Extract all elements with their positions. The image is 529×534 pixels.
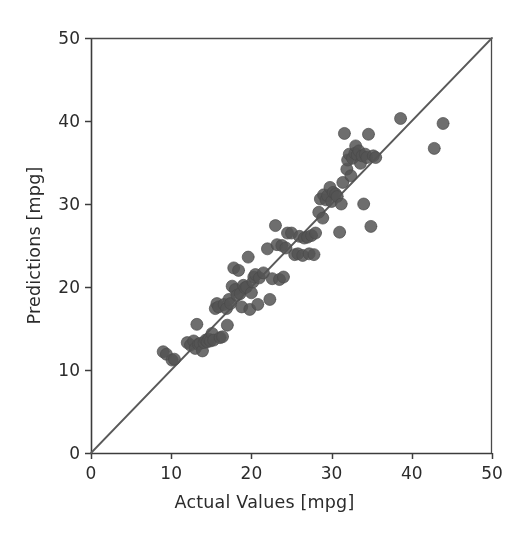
x-tick-label: 40 <box>401 463 423 483</box>
y-tick-label: 0 <box>69 443 80 463</box>
x-axis-title: Actual Values [mpg] <box>0 492 529 512</box>
y-tick-label: 50 <box>58 28 80 48</box>
y-axis-title: Predictions [mpg] <box>24 38 44 453</box>
y-tick-label: 40 <box>58 111 80 131</box>
scatter-plot-figure: 01020304050 01020304050 Actual Values [m… <box>0 0 529 534</box>
y-tick-label: 20 <box>58 277 80 297</box>
x-tick-label: 20 <box>241 463 263 483</box>
x-tick-label: 0 <box>86 463 97 483</box>
y-tick-label: 10 <box>58 360 80 380</box>
y-tick-label: 30 <box>58 194 80 214</box>
x-tick-label: 10 <box>160 463 182 483</box>
x-tick-label: 30 <box>321 463 343 483</box>
x-tick-label: 50 <box>481 463 503 483</box>
